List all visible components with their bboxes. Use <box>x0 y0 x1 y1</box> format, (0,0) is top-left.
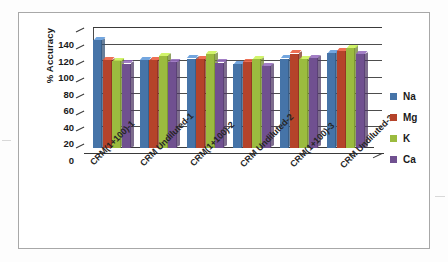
y-axis-tick-label: 140 <box>58 39 74 50</box>
legend-swatch-icon <box>390 114 397 121</box>
bar-face <box>280 59 289 148</box>
chart-legend: NaMgKCa <box>390 86 446 170</box>
bar-face <box>346 48 355 148</box>
bar-face <box>243 62 252 148</box>
legend-label: Ca <box>403 154 416 165</box>
bar-face <box>103 60 112 148</box>
y-axis-tick-label: 100 <box>58 72 74 83</box>
bar-face <box>337 51 346 148</box>
bar <box>233 64 242 148</box>
bar-side-face <box>131 61 134 147</box>
bar <box>252 59 261 148</box>
y-axis-tick-label: 60 <box>63 105 74 116</box>
bar <box>356 54 365 148</box>
bar-face <box>93 40 102 148</box>
bar-face <box>233 64 242 148</box>
x-axis-category-labels: CRM(1+100)-1CRM Undiluted-1CRM(1+100)-2C… <box>84 154 384 244</box>
bar-top-face <box>346 45 358 48</box>
y-axis-tick-label: 80 <box>63 88 74 99</box>
bar-face <box>140 60 149 148</box>
y-axis-tick-label: 0 <box>69 155 74 166</box>
y-axis-tick-label: 40 <box>63 121 74 132</box>
bar-face <box>252 59 261 148</box>
figure-root: % Accuracy 140120100806040200 CRM(1+100)… <box>0 0 448 262</box>
bar-face <box>196 59 205 148</box>
bar <box>243 62 252 148</box>
legend-swatch-icon <box>390 156 397 163</box>
bar-face <box>149 60 158 148</box>
bar-face <box>290 54 299 148</box>
legend-item[interactable]: K <box>390 128 446 149</box>
y-axis-tick-label: 120 <box>58 55 74 66</box>
bar-face <box>299 59 308 148</box>
legend-swatch-icon <box>390 135 397 142</box>
bar-face <box>356 54 365 148</box>
bar <box>187 59 196 148</box>
bar <box>149 60 158 148</box>
legend-label: Na <box>403 91 416 102</box>
scan-artifact-right <box>435 196 445 197</box>
y-axis-tick-labels: 140120100806040200 <box>46 28 74 148</box>
legend-label: Mg <box>403 112 417 123</box>
legend-swatch-icon <box>390 93 397 100</box>
bar <box>290 54 299 148</box>
legend-label: K <box>403 133 410 144</box>
scan-artifact-left <box>2 140 11 141</box>
bar-face <box>187 59 196 148</box>
bar-chart: % Accuracy 140120100806040200 CRM(1+100)… <box>18 12 430 249</box>
bar <box>299 59 308 148</box>
bar <box>140 60 149 148</box>
bar <box>196 59 205 148</box>
bar <box>103 60 112 148</box>
bar <box>93 40 102 148</box>
bar <box>280 59 289 148</box>
y-axis-tick-label: 20 <box>63 138 74 149</box>
legend-item[interactable]: Na <box>390 86 446 107</box>
bar <box>337 51 346 148</box>
legend-item[interactable]: Ca <box>390 149 446 170</box>
legend-item[interactable]: Mg <box>390 107 446 128</box>
bar <box>346 48 355 148</box>
